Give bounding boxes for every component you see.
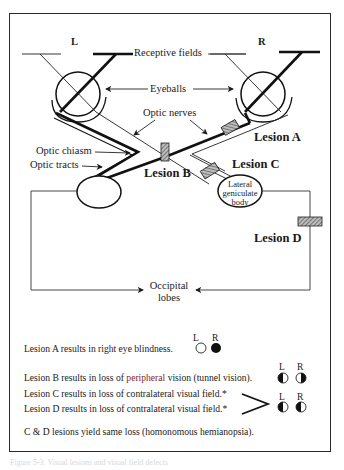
legend-note: C & D lesions yield same loss (homonomou… [24, 427, 254, 437]
legend-col-l-b: L [279, 362, 285, 372]
lesion-a-label: Lesion A [254, 131, 301, 144]
occipital-lobes-label: Occipital lobes [147, 280, 191, 304]
legend-col-r-cd: R [297, 392, 303, 402]
left-lateral-geniculate-body [77, 176, 121, 208]
lesion-a-marker [221, 120, 239, 136]
left-retina-arc [52, 97, 106, 122]
legend-row-lesion-a: Lesion A results in right eye blindness. [24, 344, 173, 354]
legend-row-lesion-c: Lesion C results in loss of contralatera… [24, 389, 227, 399]
lesion-a-right-field-icon [211, 343, 221, 353]
lesion-cd-fields [278, 402, 306, 412]
legend-col-r-a: R [212, 333, 218, 343]
lesion-b-fields [278, 373, 306, 383]
right-eye-label: R [258, 37, 266, 48]
lesion-d-label: Lesion D [254, 232, 302, 245]
optic-tracts-arrow [82, 166, 102, 167]
legend-col-r-b: R [297, 362, 303, 372]
optic-nerves-label: Optic nerves [143, 108, 196, 119]
lesion-a-left-field-icon [196, 343, 206, 353]
figure-caption: Figure 5-3. Visual lesions and visual fi… [10, 458, 168, 467]
optic-tracts-label: Optic tracts [30, 160, 79, 171]
lesion-b-label: Lesion B [144, 167, 191, 180]
left-eye-label: L [71, 37, 78, 48]
legend-row-lesion-d: Lesion D results in loss of contralatera… [24, 404, 227, 414]
lesion-c-marker [200, 162, 219, 179]
receptive-fields-label: Receptive fields [134, 48, 202, 59]
lesion-b-marker [161, 143, 169, 161]
right-eye-thick-ray [245, 52, 302, 112]
legend-col-l-a: L [193, 333, 199, 343]
legend-col-l-cd: L [279, 392, 285, 402]
eyeballs-label: Eyeballs [150, 84, 186, 95]
lesion-a-fields [196, 343, 221, 353]
lesion-c-label: Lesion C [232, 158, 280, 171]
optic-nerves-arrow-right [190, 120, 207, 134]
lateral-geniculate-body-label: Lateral geniculate body [222, 180, 258, 207]
legend-row-lesion-b: Lesion B results in loss of peripheral v… [24, 373, 252, 383]
lesion-cd-bracket [242, 394, 268, 414]
lesion-d-marker [298, 217, 322, 226]
optic-nerves-arrow-left [134, 120, 155, 135]
optic-chiasm-label: Optic chiasm [36, 146, 92, 157]
